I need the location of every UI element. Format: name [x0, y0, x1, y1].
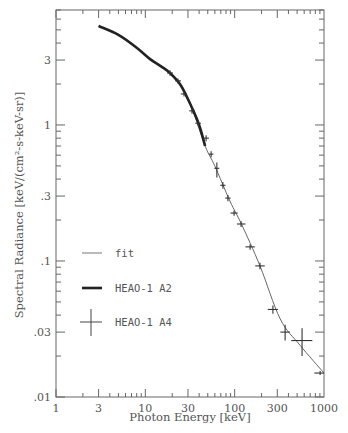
series-heao1-a2-line — [99, 26, 206, 146]
x-axis-title: Photon Energy [keV] — [129, 410, 250, 424]
x-tick-label: 1 — [53, 402, 60, 415]
x-tick-label: 300 — [267, 402, 288, 415]
legend-fit-label: fit — [115, 247, 134, 259]
legend: fit HEAO-1 A2 HEAO-1 A4 — [80, 247, 172, 336]
chart: 1310301003001000.01.03.1.313 fit HEAO-1 … — [0, 0, 348, 433]
y-axis-title: Spectral Radiance [keV/(cm²-s-keV-sr)] — [12, 92, 26, 319]
heao1-a4-point — [280, 325, 289, 341]
legend-a4-label: HEAO-1 A4 — [115, 316, 172, 328]
heao1-a2-curve — [99, 26, 206, 146]
plot-border — [56, 10, 324, 397]
plot-frame — [56, 10, 324, 397]
y-tick-label: 1 — [44, 119, 51, 132]
heao1-a4-point — [220, 182, 225, 189]
x-tick-label: 3 — [95, 402, 102, 415]
y-tick-label: .1 — [41, 255, 52, 268]
heao1-a4-point — [237, 221, 246, 227]
y-tick-label: 3 — [44, 54, 51, 67]
heao1-a4-point — [268, 306, 278, 314]
series-heao1-a4-points — [167, 70, 324, 375]
legend-a2-label: HEAO-1 A2 — [115, 282, 172, 294]
axis-ticks — [56, 10, 324, 397]
heao1-a4-point — [291, 328, 312, 356]
y-tick-label: .3 — [41, 190, 52, 203]
y-tick-label: .03 — [34, 326, 52, 339]
axis-tick-labels: 1310301003001000.01.03.1.313 — [34, 54, 339, 415]
heao1-a4-point — [245, 244, 254, 250]
heao1-a4-point — [255, 263, 264, 269]
y-tick-label: .01 — [34, 391, 52, 404]
x-tick-label: 1000 — [310, 402, 338, 415]
